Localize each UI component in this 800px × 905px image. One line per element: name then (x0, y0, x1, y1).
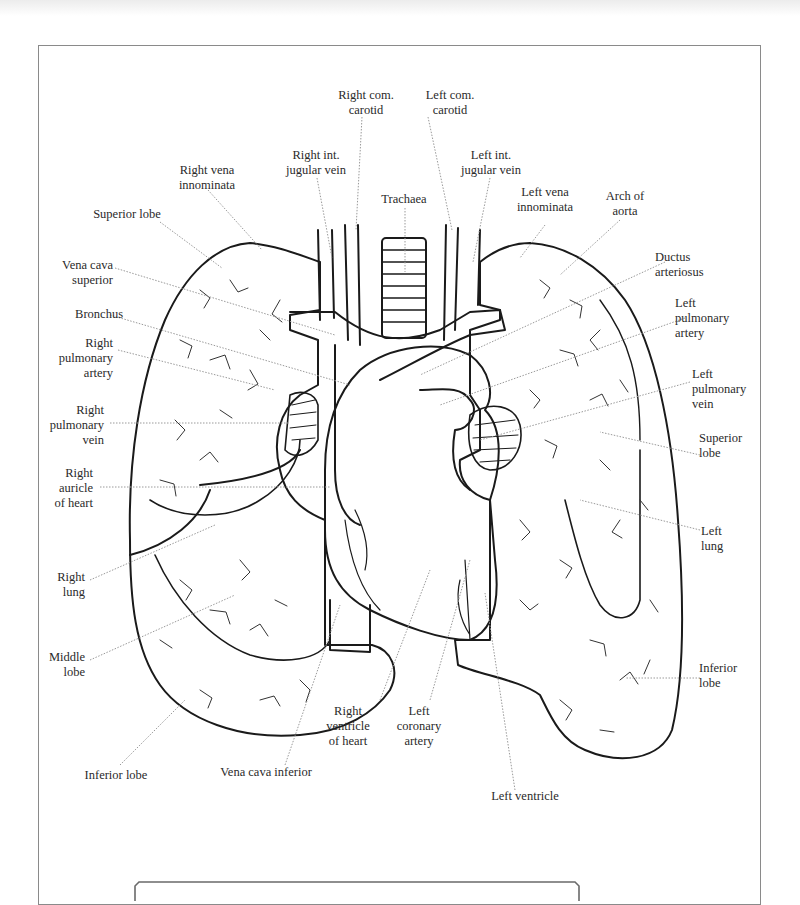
caption-box (133, 881, 581, 901)
label-inferior-lobe-right: Inferior lobe (85, 768, 148, 783)
label-left-int-jugular-vein: Left int. jugular vein (461, 148, 521, 178)
right-lung-fissure-2 (200, 450, 300, 485)
label-left-pulmonary-artery: Left pulmonary artery (675, 296, 729, 341)
vena-cava-superior (335, 345, 360, 525)
heart-outline (325, 347, 499, 640)
trachea (382, 238, 426, 338)
label-left-ventricle: Left ventricle (491, 789, 559, 804)
label-right-lung: Right lung (57, 570, 85, 600)
label-left-coronary-artery: Left coronary artery (397, 704, 441, 749)
label-superior-lobe-left: Superior lobe (699, 431, 742, 461)
left-lung-outline (455, 243, 682, 758)
pulmonary-trunk (420, 389, 474, 490)
label-inferior-lobe-left: Inferior lobe (699, 661, 737, 691)
label-left-com-carotid: Left com. carotid (426, 88, 475, 118)
label-right-vena-innominata: Right vena innominata (179, 163, 235, 193)
label-right-com-carotid: Right com. carotid (338, 88, 394, 118)
label-right-pulmonary-artery: Right pulmonary artery (59, 336, 113, 381)
label-superior-lobe-right: Superior lobe (93, 207, 161, 222)
label-ductus-arteriosus: Ductus arteriosus (655, 250, 704, 280)
label-trachaea: Trachaea (381, 192, 426, 207)
label-vena-cava-superior: Vena cava superior (62, 258, 113, 288)
left-lung-inner-edge (565, 450, 640, 618)
label-vena-cava-inferior: Vena cava inferior (220, 765, 312, 780)
innominata-bridge (290, 310, 505, 380)
label-arch-of-aorta: Arch of aorta (606, 189, 645, 219)
label-right-auricle: Right auricle of heart (54, 466, 93, 511)
right-lung-outline (130, 243, 395, 736)
label-left-vena-innominata: Left vena innominata (517, 185, 573, 215)
label-left-pulmonary-vein: Left pulmonary vein (692, 367, 746, 412)
right-coronary-vessels (345, 510, 380, 610)
left-coronary-artery (458, 560, 470, 640)
label-right-int-jugular-vein: Right int. jugular vein (286, 148, 346, 178)
label-middle-lobe: Middle lobe (49, 650, 85, 680)
label-right-pulmonary-vein: Right pulmonary vein (50, 403, 104, 448)
label-bronchus: Bronchus (75, 307, 123, 322)
right-pulmonary-vessels (285, 392, 318, 455)
label-right-ventricle: Right ventricle of heart (326, 704, 370, 749)
label-left-lung: Left lung (701, 524, 723, 554)
